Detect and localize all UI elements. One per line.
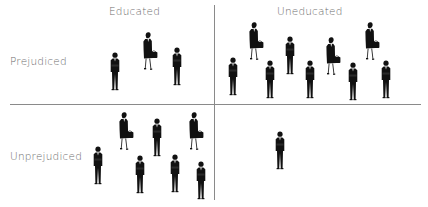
businesswoman-icon bbox=[141, 32, 159, 71]
businesswoman-icon bbox=[363, 22, 381, 61]
businessman-icon bbox=[150, 118, 164, 157]
businessman-icon bbox=[273, 131, 287, 170]
businessman-icon bbox=[168, 154, 182, 193]
businessman-icon bbox=[379, 60, 393, 99]
horizontal-divider bbox=[10, 104, 421, 105]
businesswoman-icon bbox=[247, 22, 265, 61]
vertical-divider bbox=[214, 5, 215, 200]
businessman-icon bbox=[194, 161, 208, 200]
row-header-unprejudiced: Unprejudiced bbox=[10, 150, 82, 162]
businessman-icon bbox=[283, 36, 297, 75]
businesswoman-icon bbox=[324, 37, 342, 76]
row-header-prejudiced: Prejudiced bbox=[10, 55, 67, 67]
businessman-icon bbox=[226, 57, 240, 96]
businessman-icon bbox=[263, 60, 277, 99]
businessman-icon bbox=[133, 155, 147, 194]
businessman-icon bbox=[108, 52, 122, 91]
businessman-icon bbox=[303, 60, 317, 99]
businesswoman-icon bbox=[117, 112, 135, 151]
businessman-icon bbox=[170, 47, 184, 86]
businessman-icon bbox=[346, 62, 360, 101]
column-header-uneducated: Uneducated bbox=[277, 5, 343, 17]
businessman-icon bbox=[91, 146, 105, 185]
column-header-educated: Educated bbox=[109, 5, 160, 17]
businesswoman-icon bbox=[187, 112, 205, 151]
